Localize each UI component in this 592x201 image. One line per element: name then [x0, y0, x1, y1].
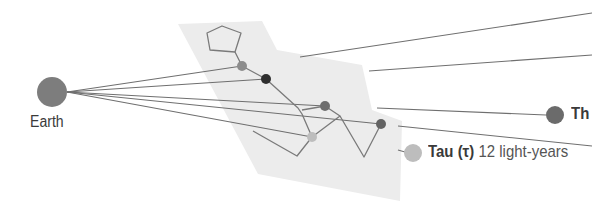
- earth-icon: [37, 77, 67, 107]
- star-3: [320, 101, 330, 111]
- star-4: [307, 132, 317, 142]
- star-2: [261, 74, 271, 84]
- tau-star-name: Tau (τ): [428, 142, 474, 161]
- far-line-1: [300, 13, 592, 57]
- earth-label: Earth: [30, 113, 64, 131]
- far-line-theta: [377, 108, 546, 115]
- tau-star-label: Tau (τ) 12 light-years: [428, 142, 568, 162]
- theta-star-label: Th: [571, 104, 589, 124]
- theta-star-icon: [546, 106, 564, 124]
- far-line-2: [369, 55, 592, 71]
- star-1: [237, 61, 247, 71]
- tau-star-distance: 12 light-years: [478, 142, 568, 161]
- tau-star-icon: [404, 144, 422, 162]
- sky-plane: [178, 21, 402, 201]
- constellation-distance-diagram: [0, 0, 592, 201]
- star-5: [376, 119, 386, 129]
